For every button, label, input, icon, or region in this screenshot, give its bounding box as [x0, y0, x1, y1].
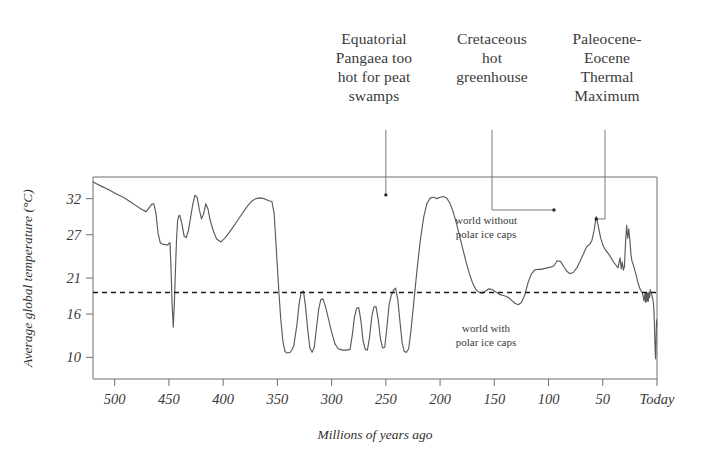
- y-tick-label: 21: [67, 270, 82, 286]
- x-tick-label: 500: [104, 391, 127, 407]
- y-axis-ticks: [86, 199, 93, 358]
- x-tick-label: Today: [640, 391, 675, 407]
- leader-line-petm: [596, 130, 605, 219]
- leader-dot-petm: [595, 217, 598, 220]
- plot-svg: 3227211610 50045040035030025020015010050…: [0, 0, 703, 470]
- y-axis-title: Average global temperature (°C): [20, 189, 35, 368]
- x-axis-title: Millions of years ago: [316, 427, 432, 442]
- x-tick-label: 350: [266, 391, 290, 407]
- plot-frame: [93, 177, 657, 379]
- x-tick-label: 50: [596, 391, 611, 407]
- y-tick-label: 32: [66, 191, 82, 207]
- temperature-series: [93, 182, 657, 359]
- x-axis-ticks: [115, 379, 657, 386]
- x-tick-label: 300: [320, 391, 344, 407]
- x-tick-label: 150: [483, 391, 506, 407]
- chart-container: Equatorial Pangaea too hot for peat swam…: [0, 0, 703, 470]
- y-axis-tick-labels: 3227211610: [66, 191, 82, 366]
- y-tick-label: 10: [67, 349, 82, 365]
- x-tick-label: 100: [538, 391, 561, 407]
- x-tick-label: 250: [375, 391, 398, 407]
- leader-dot-equatorial-pangaea: [384, 193, 387, 196]
- x-tick-label: 450: [158, 391, 181, 407]
- x-axis-tick-labels: 50045040035030025020015010050Today: [104, 391, 675, 407]
- series-path: [93, 182, 657, 359]
- x-tick-label: 400: [212, 391, 235, 407]
- y-tick-label: 16: [67, 306, 82, 322]
- x-tick-label: 200: [429, 391, 452, 407]
- y-tick-label: 27: [67, 227, 82, 243]
- leader-line-cretaceous-greenhouse: [492, 130, 554, 210]
- annotation-leader-lines: [384, 130, 605, 221]
- leader-dot-cretaceous-greenhouse: [552, 208, 555, 211]
